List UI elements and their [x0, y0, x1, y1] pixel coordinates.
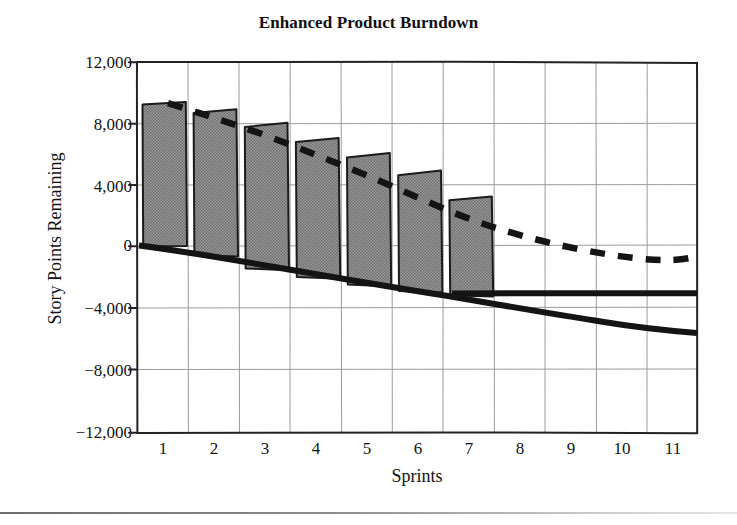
bottom-spine — [137, 432, 697, 433]
left-spine — [137, 63, 138, 434]
chart-figure: Enhanced Product Burndown Story Points R… — [0, 0, 737, 525]
tick-marks — [129, 62, 137, 433]
plot-area — [0, 0, 737, 525]
bar-sprint-1[interactable] — [143, 102, 188, 246]
bar-sprint-2[interactable] — [194, 109, 238, 256]
figure-bottom-rule — [0, 512, 737, 514]
bar-sprint-7[interactable] — [449, 196, 493, 296]
bar-sprint-6[interactable] — [398, 171, 442, 293]
